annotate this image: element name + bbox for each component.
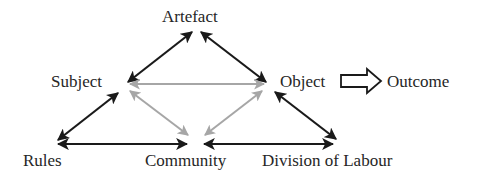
arrow-object-division xyxy=(275,92,336,139)
node-community: Community xyxy=(145,152,226,169)
arrow-subject-community xyxy=(130,91,188,135)
arrow-subject-artefact xyxy=(128,32,192,82)
arrow-artefact-object xyxy=(201,32,266,82)
node-object: Object xyxy=(280,73,325,90)
arrow-subject-rules xyxy=(58,93,118,140)
node-rules: Rules xyxy=(23,152,62,169)
arrow-object-outcome-icon xyxy=(341,69,381,93)
node-division-of-labour: Division of Labour xyxy=(262,152,392,169)
arrow-object-community xyxy=(205,91,262,135)
node-subject: Subject xyxy=(51,73,102,90)
node-outcome: Outcome xyxy=(387,73,449,90)
node-artefact: Artefact xyxy=(162,8,218,25)
